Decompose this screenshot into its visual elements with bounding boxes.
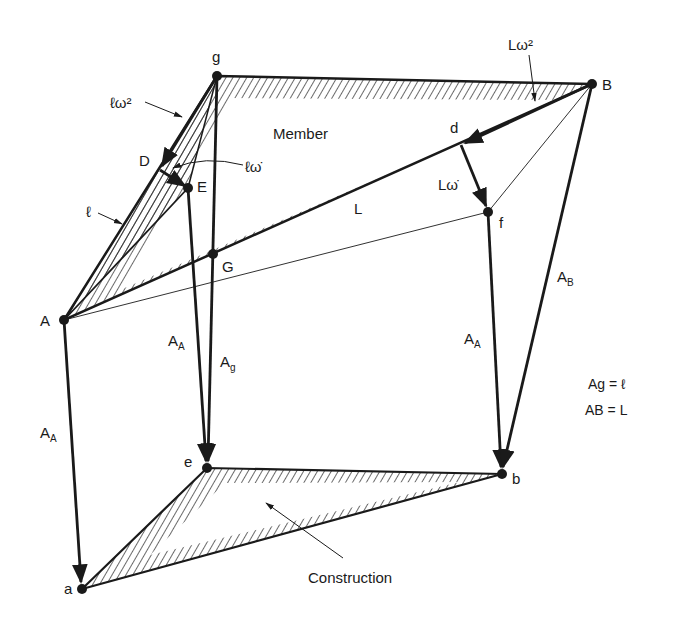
point-e bbox=[202, 463, 212, 473]
vector-A-a bbox=[64, 320, 81, 582]
label-A-A-right: AA bbox=[464, 330, 481, 350]
point-E bbox=[183, 183, 193, 193]
point-A bbox=[59, 315, 69, 325]
equation-Ag: Ag = ℓ bbox=[588, 376, 626, 392]
label-A-g: Ag bbox=[220, 353, 236, 373]
point-G bbox=[208, 249, 218, 259]
construction-triangle bbox=[82, 468, 502, 589]
member-triangle bbox=[64, 76, 592, 320]
label-f: f bbox=[499, 214, 504, 231]
label-D: D bbox=[139, 152, 150, 169]
label-b: b bbox=[512, 470, 520, 487]
label-L-omega-sq: Lω² bbox=[508, 36, 533, 53]
label-A-B: AB bbox=[557, 268, 574, 288]
vector-B-b bbox=[503, 84, 592, 467]
label-A-A-mid: AA bbox=[168, 332, 185, 352]
leader-l-omega-sq bbox=[145, 102, 182, 117]
label-A: A bbox=[40, 312, 50, 329]
point-a bbox=[77, 584, 87, 594]
point-g bbox=[212, 71, 222, 81]
point-B bbox=[587, 79, 597, 89]
label-l: ℓ bbox=[86, 203, 91, 220]
label-L: L bbox=[354, 200, 362, 217]
equation-AB: AB = L bbox=[585, 402, 628, 418]
point-f bbox=[483, 207, 493, 217]
label-a: a bbox=[64, 580, 73, 597]
label-B: B bbox=[602, 76, 612, 93]
line-A-E bbox=[64, 188, 188, 320]
label-construction: Construction bbox=[308, 569, 392, 586]
point-b bbox=[497, 469, 507, 479]
label-A-A-left: AA bbox=[40, 424, 57, 444]
label-l-omega-sq: ℓω² bbox=[110, 94, 132, 111]
label-E: E bbox=[197, 178, 207, 195]
vector-d-f bbox=[461, 145, 486, 206]
label-l-omega-dot: ℓω̇ bbox=[245, 158, 263, 175]
label-e: e bbox=[184, 453, 192, 470]
leader-l bbox=[98, 213, 122, 224]
vector-f-b bbox=[488, 212, 501, 467]
vector-E-e bbox=[188, 188, 206, 461]
label-L-omega-dot: Lω̇ bbox=[438, 176, 459, 193]
label-d: d bbox=[450, 119, 458, 136]
label-member: Member bbox=[273, 125, 328, 142]
label-g: g bbox=[212, 48, 220, 65]
label-G: G bbox=[222, 258, 234, 275]
relative-acceleration-diagram: g B A D E G d f e b a Member Constructio… bbox=[0, 0, 673, 628]
